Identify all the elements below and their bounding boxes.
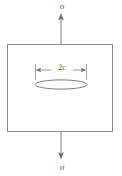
stress-label-bottom: σ [52,163,72,172]
rectangular-plate [8,45,113,132]
crack-width-symbol: c [62,62,66,72]
crack-width-label: 2c [50,63,74,72]
elliptical-crack [35,80,87,89]
tensile-stress-arrow-down [58,132,64,160]
tensile-stress-arrow-up [58,13,64,44]
stress-label-top: σ [52,2,72,11]
fracture-mechanics-figure: σ σ 2c [0,0,122,176]
figure-drawing-surface [0,0,122,176]
